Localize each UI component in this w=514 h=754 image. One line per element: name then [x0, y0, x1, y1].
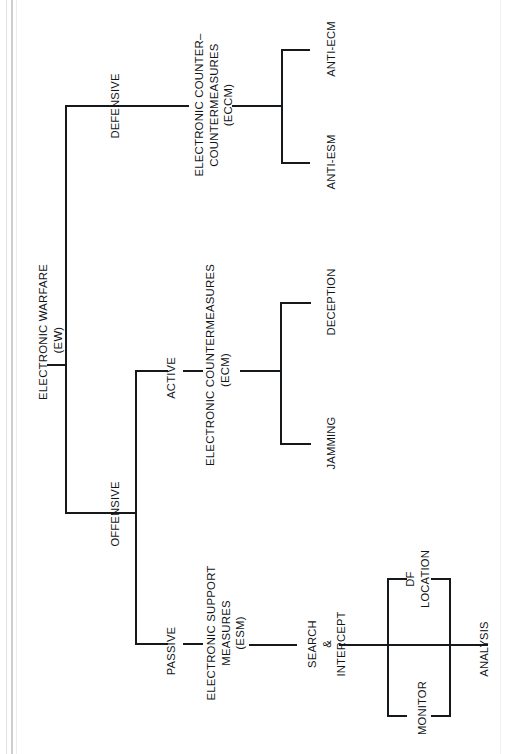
edge-esm-rail-outer [449, 578, 451, 717]
edge-monitor-end-stub [431, 715, 451, 717]
edge-offensive-to-passive [135, 643, 168, 645]
scan-edge-artifact [11, 0, 13, 754]
edge-root-trunk [65, 105, 67, 514]
scan-edge-artifact [6, 0, 7, 754]
node-label-search-intercept: SEARCH & INTERCEPT [305, 600, 349, 688]
edge-ecm-to-jamming [280, 443, 311, 445]
edge-ecm-stub [240, 370, 282, 372]
node-label-active: ACTIVE [165, 341, 179, 415]
edge-eccm-to-anti-ecm [281, 49, 310, 51]
edge-defensive-to-eccm [65, 105, 189, 107]
diagram-canvas: ELECTRONIC WARFARE (EW) DEFENSIVE OFFENS… [0, 0, 514, 754]
node-label-df-location: DF LOCATION [403, 544, 432, 614]
node-label-analysis: ANALYSIS [478, 604, 492, 694]
edge-eccm-stub [232, 105, 283, 107]
node-label-jamming: JAMMING [325, 400, 339, 486]
node-label-offensive: OFFENSIVE [109, 468, 123, 560]
node-label-esm: ELECTRONIC SUPPORT MEASURES (ESM) [204, 563, 248, 703]
node-label-monitor: MONITOR [416, 666, 430, 750]
node-label-root: ELECTRONIC WARFARE (EW) [36, 280, 65, 400]
edge-eccm-splitter [281, 49, 283, 164]
edge-esm-spine [339, 644, 488, 646]
edge-monitor-stub [387, 715, 407, 717]
edge-esm-stub [249, 644, 297, 646]
node-label-ecm: ELECTRONIC COUNTERMEASURES (ECM) [203, 274, 232, 466]
edge-offensive-to-splitter [65, 512, 136, 514]
edge-df-location-end-stub [431, 578, 451, 580]
edge-esm-rail-inner [387, 578, 389, 717]
edge-ecm-splitter [280, 302, 282, 445]
node-label-defensive: DEFENSIVE [109, 60, 123, 152]
node-label-anti-ecm: ANTI-ECM [325, 6, 339, 92]
edge-active-to-ecm [183, 370, 203, 372]
scan-edge-artifact [500, 0, 501, 754]
edge-offensive-splitter [135, 370, 137, 645]
edge-offensive-to-active [135, 370, 168, 372]
edge-eccm-to-anti-esm [281, 162, 310, 164]
node-label-anti-esm: ANTI-ESM [325, 119, 339, 205]
node-label-eccm: ELECTRONIC COUNTER– COUNTERMEASURES (ECC… [192, 20, 236, 190]
edge-ecm-to-deception [280, 302, 311, 304]
edge-passive-to-esm [183, 643, 203, 645]
node-label-deception: DECEPTION [325, 259, 339, 345]
scan-edge-artifact [16, 0, 17, 754]
node-label-passive: PASSIVE [165, 614, 179, 688]
